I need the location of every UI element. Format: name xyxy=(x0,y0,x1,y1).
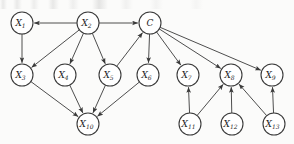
node-label-c: C xyxy=(147,18,154,28)
node-x5[interactable]: X5 xyxy=(99,64,121,86)
edge-x3-to-x10 xyxy=(31,82,78,117)
edge-x13-to-x8 xyxy=(239,84,267,116)
node-x2[interactable]: X2 xyxy=(77,12,99,34)
node-x7[interactable]: X7 xyxy=(177,64,199,86)
node-x3[interactable]: X3 xyxy=(11,64,33,86)
node-x4[interactable]: X4 xyxy=(54,64,76,86)
edge-x13-to-x9 xyxy=(272,87,273,113)
node-layer: X1X2CX3X4X5X6X7X8X9X10X11X12X13 xyxy=(11,12,285,135)
node-x8[interactable]: X8 xyxy=(220,64,242,86)
edge-x4-to-x10 xyxy=(70,85,83,113)
node-c[interactable]: C xyxy=(139,12,161,34)
edge-c-to-x7 xyxy=(156,32,180,65)
dag-canvas: X1X2CX3X4X5X6X7X8X9X10X11X12X13 xyxy=(0,0,294,144)
edge-x11-to-x7 xyxy=(188,87,189,113)
edge-x5-to-c xyxy=(117,33,143,67)
edge-x6-to-x10 xyxy=(97,82,139,116)
node-x13[interactable]: X13 xyxy=(263,113,285,135)
node-x6[interactable]: X6 xyxy=(137,64,159,86)
edge-x2-to-x5 xyxy=(92,33,105,64)
edge-c-to-x9 xyxy=(160,27,261,70)
node-x12[interactable]: X12 xyxy=(221,113,243,135)
node-x10[interactable]: X10 xyxy=(77,113,99,135)
edge-x12-to-x8 xyxy=(231,87,232,113)
edge-x11-to-x8 xyxy=(197,84,223,115)
node-x1[interactable]: X1 xyxy=(11,12,33,34)
node-x11[interactable]: X11 xyxy=(179,113,201,135)
dag-figure: X1X2CX3X4X5X6X7X8X9X10X11X12X13 xyxy=(0,0,294,144)
edge-x2-to-x4 xyxy=(70,33,84,64)
edge-x2-to-x3 xyxy=(32,30,80,68)
edge-c-to-x6 xyxy=(148,34,149,63)
edge-x5-to-x10 xyxy=(93,85,105,113)
node-x9[interactable]: X9 xyxy=(261,64,283,86)
